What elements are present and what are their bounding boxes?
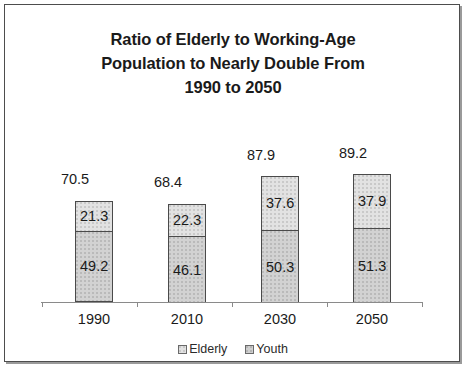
x-axis-label: 2050 [332, 311, 412, 327]
bar-stack: 37.6 50.3 [261, 176, 299, 302]
bar-stack: 22.3 46.1 [168, 204, 206, 302]
x-axis-tick [137, 302, 138, 307]
bar-stack: 37.9 51.3 [353, 174, 391, 302]
bar-segment-value: 37.6 [266, 196, 294, 211]
legend-swatch-icon [245, 345, 254, 354]
bar-segment-elderly: 37.9 [354, 175, 390, 229]
bar-segment-value: 46.1 [173, 263, 201, 278]
legend-label: Elderly [189, 342, 227, 356]
bar-segment-value: 49.2 [80, 259, 108, 274]
bar-segment-youth: 51.3 [354, 229, 390, 303]
bar-total-label: 87.9 [231, 147, 291, 163]
bar-stack: 21.3 49.2 [75, 201, 113, 302]
plot-area: 70.5 21.3 49.2 68.4 22.3 46.1 87.9 37.6 [5, 5, 461, 363]
legend-swatch-icon [178, 345, 187, 354]
legend-item-youth[interactable]: Youth [245, 342, 288, 356]
legend-label: Youth [256, 342, 288, 356]
bar-segment-youth: 49.2 [76, 232, 112, 301]
chart-legend: Elderly Youth [5, 342, 461, 356]
bar-segment-elderly: 21.3 [76, 202, 112, 232]
x-axis-label: 1990 [54, 311, 134, 327]
bar-total-label: 68.4 [138, 174, 198, 190]
bar-segment-youth: 50.3 [262, 231, 298, 303]
x-axis-tick [422, 302, 423, 307]
x-axis-tick [42, 302, 43, 307]
bar-segment-elderly: 22.3 [169, 205, 205, 237]
bar-segment-elderly: 37.6 [262, 177, 298, 231]
x-axis-tick [327, 302, 328, 307]
bar-segment-value: 50.3 [266, 260, 294, 275]
bar-total-label: 70.5 [45, 171, 105, 187]
x-axis-label: 2010 [147, 311, 227, 327]
bar-segment-value: 51.3 [358, 259, 386, 274]
chart-figure: Ratio of Elderly to Working-Age Populati… [4, 4, 460, 362]
bar-segment-value: 21.3 [80, 209, 108, 224]
bar-segment-value: 37.9 [358, 194, 386, 209]
bar-segment-youth: 46.1 [169, 237, 205, 303]
x-axis-label: 2030 [240, 311, 320, 327]
legend-item-elderly[interactable]: Elderly [178, 342, 227, 356]
bar-total-label: 89.2 [323, 145, 383, 161]
bar-segment-value: 22.3 [173, 213, 201, 228]
x-axis-tick [232, 302, 233, 307]
